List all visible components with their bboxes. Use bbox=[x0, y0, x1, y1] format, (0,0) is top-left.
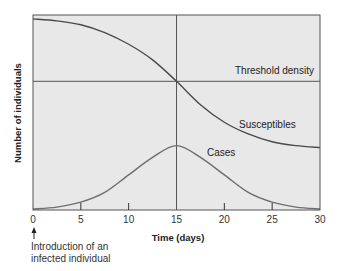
x-tick-label-0: 0 bbox=[30, 214, 36, 225]
introduction-annotation: Introduction of an infected individual bbox=[31, 227, 111, 264]
x-tick-label-10: 10 bbox=[123, 214, 135, 225]
y-axis-title: Number of individuals bbox=[12, 63, 23, 163]
x-axis-tick-labels: 051015202530 bbox=[30, 214, 326, 225]
x-tick-label-15: 15 bbox=[171, 214, 183, 225]
threshold-density-label: Threshold density bbox=[235, 65, 314, 76]
x-tick-label-25: 25 bbox=[267, 214, 279, 225]
x-tick-label-5: 5 bbox=[78, 214, 84, 225]
cases-label: Cases bbox=[207, 147, 235, 158]
x-tick-label-30: 30 bbox=[314, 214, 326, 225]
arrow-head-icon bbox=[32, 227, 37, 233]
x-tick-label-20: 20 bbox=[219, 214, 231, 225]
susceptibles-label: Susceptibles bbox=[239, 119, 296, 130]
chart-svg: 051015202530 Threshold density Susceptib… bbox=[0, 0, 343, 271]
x-axis-title: Time (days) bbox=[152, 232, 205, 243]
introduction-line-2: infected individual bbox=[31, 253, 111, 264]
introduction-line-1: Introduction of an bbox=[31, 241, 108, 252]
